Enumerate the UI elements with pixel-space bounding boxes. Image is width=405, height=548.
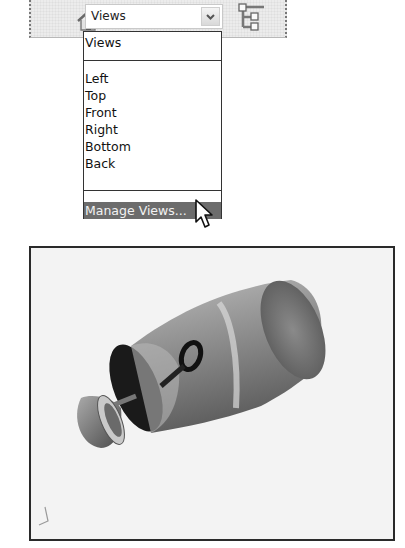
arrow-pointer-icon — [194, 198, 218, 230]
dropdown-item-left[interactable]: Left — [85, 70, 109, 87]
dropdown-separator — [84, 190, 221, 191]
views-combo-value: Views — [91, 9, 126, 23]
chevron-down-icon — [202, 8, 219, 25]
hierarchy-button[interactable] — [236, 2, 266, 34]
hierarchy-tree-icon — [236, 2, 266, 34]
views-combo[interactable]: Views — [85, 4, 223, 29]
dropdown-item-back[interactable]: Back — [85, 155, 115, 172]
views-dropdown-list: Views Left Top Front Right Bottom Back M… — [83, 31, 222, 219]
combo-dropdown-button[interactable] — [201, 7, 220, 26]
manage-views-label: Manage Views... — [85, 202, 187, 219]
dropdown-item-front[interactable]: Front — [85, 104, 117, 121]
dropdown-item-top[interactable]: Top — [85, 87, 106, 104]
graphics-viewport[interactable] — [29, 246, 395, 541]
dropdown-item-views[interactable]: Views — [85, 34, 121, 51]
axis-triad-icon — [37, 505, 53, 527]
dropdown-item-right[interactable]: Right — [85, 121, 118, 138]
dropdown-separator — [84, 60, 221, 61]
exploded-capsule-3d-model — [31, 248, 393, 539]
dropdown-item-bottom[interactable]: Bottom — [85, 138, 131, 155]
